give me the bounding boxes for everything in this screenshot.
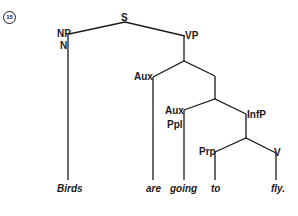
node-prp: Prp <box>199 147 216 157</box>
node-v: V <box>274 148 281 158</box>
node-n: N <box>60 41 67 51</box>
node-vp: VP <box>185 31 198 41</box>
leaf-going: going <box>170 184 197 194</box>
node-ppl: Ppl <box>167 120 183 130</box>
leaf-fly: fly. <box>271 184 285 194</box>
node-aux-1: Aux <box>134 72 153 82</box>
node-s: S <box>121 13 128 23</box>
node-aux-2: Aux <box>165 106 184 116</box>
leaf-to: to <box>211 184 220 194</box>
node-np: NP <box>57 29 71 39</box>
leaf-are: are <box>146 184 161 194</box>
node-infp: InfP <box>247 110 266 120</box>
leaf-birds: Birds <box>57 184 83 194</box>
